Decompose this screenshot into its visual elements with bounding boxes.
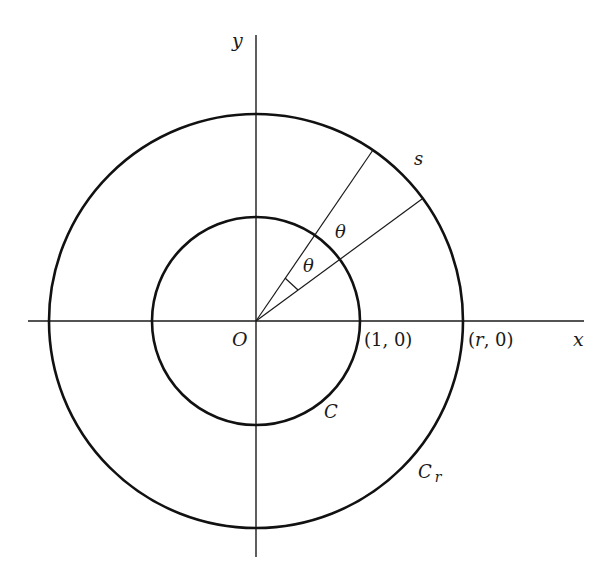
y-axis-label: y (231, 29, 243, 51)
arc-length-label: s (414, 148, 423, 169)
angle-marker (285, 278, 298, 290)
circle-c-label: C (324, 401, 338, 422)
point-r-0-label: (r, 0) (468, 329, 514, 350)
point-1-0-label: (1, 0) (364, 329, 412, 350)
theta-inner-label: θ (303, 255, 314, 276)
x-axis-label: x (573, 328, 584, 350)
diagram-canvas: y x O (1, 0) (r, 0) s θ θ C Cr (0, 0, 604, 573)
ray-lower (256, 199, 422, 321)
theta-outer-label: θ (335, 221, 346, 242)
circle-cr-label: Cr (418, 461, 443, 485)
origin-label: O (232, 328, 248, 350)
